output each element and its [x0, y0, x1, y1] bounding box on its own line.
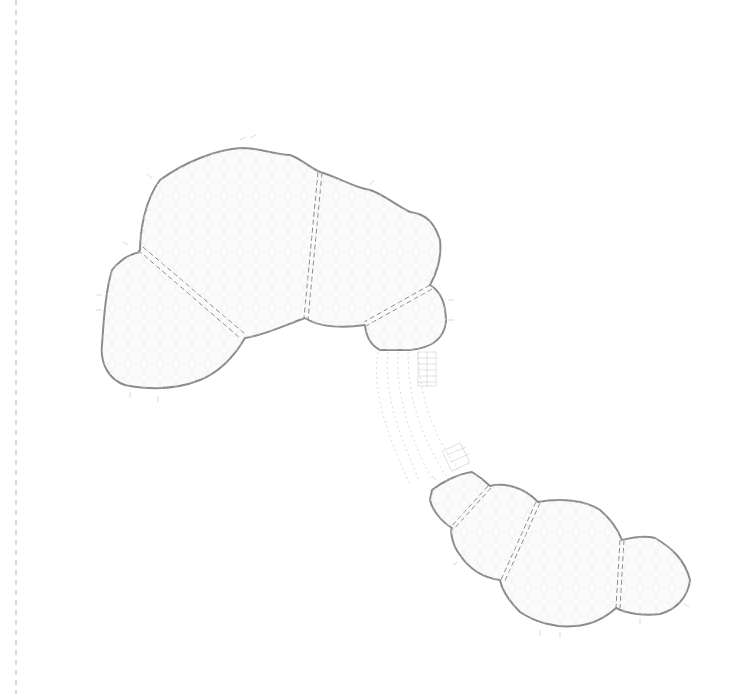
curved-corridor	[377, 352, 470, 485]
lower-stair-grid	[442, 443, 469, 471]
lower-cell-texture	[430, 472, 690, 626]
plan-diagram	[0, 0, 745, 694]
upper-cell-texture	[102, 148, 446, 388]
stair-grid	[418, 352, 436, 386]
